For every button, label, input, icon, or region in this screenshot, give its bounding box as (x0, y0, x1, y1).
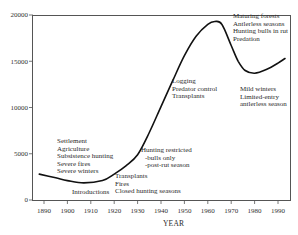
annotation-line: Predation (233, 36, 288, 44)
annotation-transplants: TransplantsFiresClosed hunting seasons (115, 173, 181, 196)
annotation-hunting-restricted: Hunting restricted-bulls only-post-rut s… (141, 147, 192, 170)
x-tick-label: 1910 (84, 207, 99, 215)
annotation-settlement: SettlementAgricultureSubsistence hunting… (57, 138, 113, 176)
x-tick-label: 1950 (177, 207, 192, 215)
annotation-line: Severe winters (57, 168, 113, 176)
y-tick-label: 10000 (11, 104, 29, 112)
annotation-mild-winters: Mild wintersLimited-entryantlerless seas… (240, 86, 287, 109)
annotation-line: antlerless season (240, 101, 287, 109)
x-ticks: 1890190019101920193019401950196019701980… (37, 200, 286, 215)
x-tick-label: 1990 (271, 207, 286, 215)
y-tick-label: 15000 (11, 58, 29, 66)
x-tick-label: 1980 (248, 207, 263, 215)
annotation-line: Closed hunting seasons (115, 188, 181, 196)
annotation-line: -post-rut season (141, 162, 192, 170)
x-tick-label: 1970 (224, 207, 239, 215)
x-tick-label: 1940 (154, 207, 169, 215)
annotation-logging: LoggingPredator controlTransplants (172, 78, 217, 101)
y-tick-label: 5000 (14, 150, 29, 158)
annotation-maturing-forests: Maturing forestsAntlerless seasonsHuntin… (233, 13, 288, 43)
y-ticks: 05000100001500020000 (11, 11, 34, 204)
annotation-line: Transplants (172, 93, 217, 101)
x-tick-label: 1900 (60, 207, 75, 215)
x-tick-label: 1930 (131, 207, 146, 215)
y-tick-label: 0 (25, 196, 29, 204)
annotation-introductions: Introductions (72, 189, 109, 197)
x-tick-label: 1890 (37, 207, 52, 215)
x-tick-label: 1920 (107, 207, 122, 215)
y-tick-label: 20000 (11, 11, 29, 19)
x-axis-label: YEAR (163, 219, 184, 228)
x-tick-label: 1960 (201, 207, 216, 215)
